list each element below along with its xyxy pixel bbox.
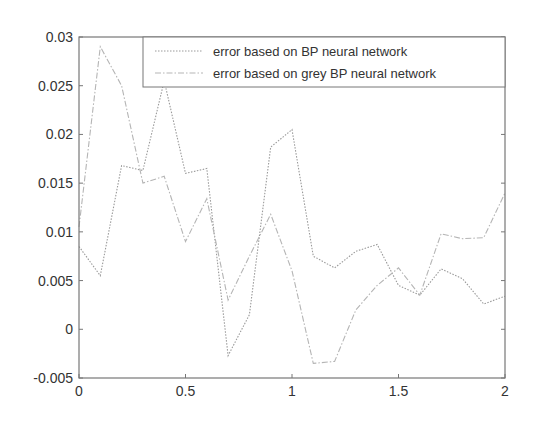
x-tick-label: 1 [288, 383, 296, 399]
legend-label-grey-bp: error based on grey BP neural network [213, 66, 437, 81]
y-tick-label: 0.025 [38, 78, 73, 94]
x-tick-label: 2 [501, 383, 509, 399]
line-chart: 00.511.520.030.0250.020.0150.010.0050-0.… [0, 0, 533, 422]
x-tick-label: 1.5 [389, 383, 409, 399]
y-tick-label: 0 [65, 321, 73, 337]
y-tick-label: 0.015 [38, 175, 73, 191]
y-tick-label: 0.01 [46, 224, 73, 240]
legend-label-bp: error based on BP neural network [213, 44, 408, 59]
legend: error based on BP neural network error b… [143, 37, 505, 87]
y-tick-label: 0.03 [46, 29, 73, 45]
y-tick-label: 0.02 [46, 126, 73, 142]
x-tick-label: 0.5 [176, 383, 196, 399]
y-tick-label: 0.005 [38, 273, 73, 289]
y-tick-label: -0.005 [33, 370, 73, 386]
x-tick-label: 0 [75, 383, 83, 399]
